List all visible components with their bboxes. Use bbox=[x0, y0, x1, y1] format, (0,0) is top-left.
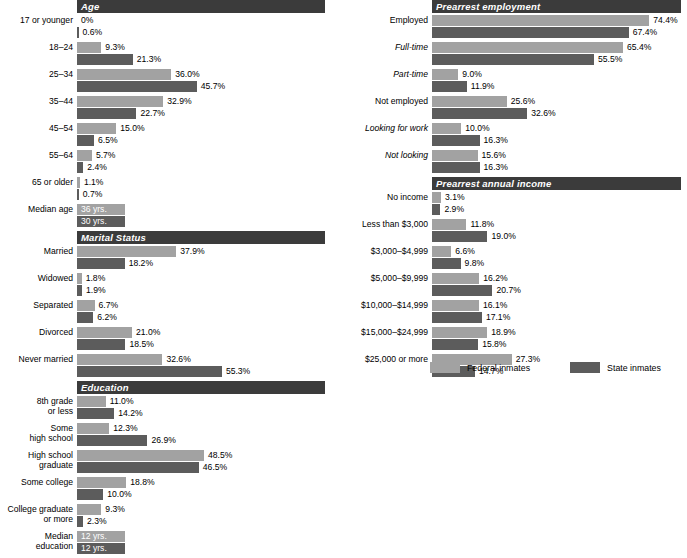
education-header-label: Education bbox=[81, 382, 129, 393]
value-label-federal: 12 yrs. bbox=[81, 531, 107, 542]
value-label-state: 26.9% bbox=[151, 435, 175, 446]
bar-state bbox=[77, 312, 93, 323]
bar-state bbox=[432, 27, 629, 38]
bar-group: 9.0%11.9% bbox=[432, 69, 681, 93]
education-header: Education bbox=[77, 381, 325, 394]
marital-status-header-label: Marital Status bbox=[81, 232, 146, 243]
category-label: 45–54 bbox=[0, 124, 73, 134]
value-label-federal: 37.9% bbox=[180, 246, 204, 257]
value-label-federal: 11.0% bbox=[110, 396, 134, 407]
bar-line: 0.6% bbox=[77, 27, 325, 38]
chart-row: Not looking15.6%16.3% bbox=[432, 150, 681, 177]
value-label-federal: 74.4% bbox=[653, 15, 677, 26]
bar-federal bbox=[77, 477, 126, 488]
category-label: $25,000 or more bbox=[288, 355, 428, 365]
value-label-federal: 9.3% bbox=[105, 504, 125, 515]
bar-federal bbox=[432, 300, 479, 311]
bar-line: 12 yrs. bbox=[77, 543, 325, 554]
bar-state bbox=[432, 108, 527, 119]
category-label: 8th grade or less bbox=[0, 397, 73, 416]
bar-state bbox=[77, 135, 94, 146]
chart-row: Not employed25.6%32.6% bbox=[432, 96, 681, 123]
bar-line: 6.2% bbox=[77, 312, 325, 323]
section-education: Education8th grade or less11.0%14.2%Some… bbox=[77, 381, 325, 558]
value-label-state: 55.3% bbox=[226, 366, 250, 377]
value-label-state: 30 yrs. bbox=[81, 216, 107, 227]
value-label-state: 14.2% bbox=[118, 408, 142, 419]
bar-federal bbox=[77, 504, 101, 515]
bar-federal bbox=[77, 273, 82, 284]
bar-group: 11.8%19.0% bbox=[432, 219, 681, 243]
prearrest-annual-income-header: Prearrest annual income bbox=[432, 177, 681, 190]
category-label: Separated bbox=[0, 301, 73, 311]
bar-federal bbox=[77, 396, 106, 407]
bar-group: 10.0%16.3% bbox=[432, 123, 681, 147]
bar-federal bbox=[77, 69, 171, 80]
bar-federal bbox=[77, 150, 92, 161]
bar-line: 15.6% bbox=[432, 150, 681, 161]
legend-swatch-federal-icon bbox=[430, 362, 460, 373]
value-label-federal: 15.6% bbox=[482, 150, 506, 161]
bar-line: 3.1% bbox=[432, 192, 681, 203]
category-label: $5,000–$9,999 bbox=[288, 274, 428, 284]
bar-federal bbox=[432, 219, 466, 230]
bar-state bbox=[432, 258, 461, 269]
bar-group: 11.0%14.2% bbox=[77, 396, 325, 420]
bar-federal bbox=[432, 15, 649, 26]
category-label: High school graduate bbox=[0, 451, 73, 470]
bar-line: 10.0% bbox=[432, 123, 681, 134]
bar-line: 12.3% bbox=[77, 423, 325, 434]
bar-state bbox=[432, 285, 492, 296]
bar-federal bbox=[77, 300, 95, 311]
chart-row: Some college18.8%10.0% bbox=[77, 477, 325, 504]
chart-row: Full-time65.4%55.5% bbox=[432, 42, 681, 69]
bar-state bbox=[77, 339, 125, 350]
bar-federal bbox=[432, 96, 507, 107]
bar-group: 18.8%10.0% bbox=[77, 477, 325, 501]
bar-line: 2.4% bbox=[77, 162, 325, 173]
category-label: Part-time bbox=[288, 70, 428, 80]
bar-federal bbox=[77, 354, 162, 365]
value-label-federal: 32.9% bbox=[167, 96, 191, 107]
chart-row: Some high school12.3%26.9% bbox=[77, 423, 325, 450]
section-prearrest-employment: Prearrest employmentEmployed74.4%67.4%Fu… bbox=[432, 0, 681, 177]
bar-state bbox=[77, 27, 79, 38]
bar-state bbox=[77, 489, 103, 500]
bar-line: 6.6% bbox=[432, 246, 681, 257]
value-label-state: 46.5% bbox=[203, 462, 227, 473]
chart-row: Less than $3,00011.8%19.0% bbox=[432, 219, 681, 246]
bar-line: 45.7% bbox=[77, 81, 325, 92]
value-label-federal: 9.3% bbox=[105, 42, 125, 53]
bar-group: 16.1%17.1% bbox=[432, 300, 681, 324]
category-label: Median education bbox=[0, 532, 73, 551]
value-label-state: 18.5% bbox=[129, 339, 153, 350]
category-label: 65 or older bbox=[0, 178, 73, 188]
bar-federal bbox=[432, 192, 441, 203]
category-label: $10,000–$14,999 bbox=[288, 301, 428, 311]
category-label: $3,000–$4,999 bbox=[288, 247, 428, 257]
bar-line: 19.0% bbox=[432, 231, 681, 242]
chart-row: Looking for work10.0%16.3% bbox=[432, 123, 681, 150]
value-label-state: 21.3% bbox=[137, 54, 161, 65]
category-label: No income bbox=[288, 193, 428, 203]
legend-label-federal: Federal inmates bbox=[467, 363, 530, 373]
bar-line: 22.7% bbox=[77, 108, 325, 119]
bar-line: 48.5% bbox=[77, 450, 325, 461]
value-label-state: 9.8% bbox=[465, 258, 485, 269]
legend-label-state: State inmates bbox=[607, 363, 661, 373]
bar-line: 20.7% bbox=[432, 285, 681, 296]
bar-line: 11.9% bbox=[432, 81, 681, 92]
marital-status-header: Marital Status bbox=[77, 231, 325, 244]
chart-row: $10,000–$14,99916.1%17.1% bbox=[432, 300, 681, 327]
bar-federal bbox=[77, 246, 176, 257]
bar-state bbox=[77, 81, 197, 92]
category-label: Divorced bbox=[0, 328, 73, 338]
chart-row: $15,000–$24,99918.9%15.8% bbox=[432, 327, 681, 354]
bar-line: 9.0% bbox=[432, 69, 681, 80]
category-label: 17 or younger bbox=[0, 16, 73, 26]
chart-row: High school graduate48.5%46.5% bbox=[77, 450, 325, 477]
bar-federal bbox=[77, 123, 116, 134]
value-label-federal: 18.8% bbox=[130, 477, 154, 488]
chart-row: $3,000–$4,9996.6%9.8% bbox=[432, 246, 681, 273]
bar-line: 11.0% bbox=[77, 396, 325, 407]
